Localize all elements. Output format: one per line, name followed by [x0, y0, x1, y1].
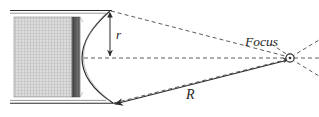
focus-label: Focus [244, 34, 278, 49]
focus-center-dot [289, 57, 292, 60]
radius-label: r [116, 27, 122, 42]
reflector-diagram-svg: r R Focus [0, 0, 319, 117]
arc-cap-top [80, 17, 83, 22]
arc-cap-bottom [80, 92, 83, 97]
radius-arrow [107, 12, 113, 56]
ray-diverge-upper [291, 40, 319, 57]
figure-container: r R Focus [0, 0, 319, 117]
hatched-block [14, 17, 80, 97]
distance-arrow [115, 60, 288, 104]
arc-inner [84, 14, 111, 101]
distance-label: R [185, 87, 195, 102]
distance-arrow-line [115, 60, 288, 104]
ray-bottom-to-focus [114, 59, 289, 103]
hatched-block-body [14, 17, 72, 97]
converging-rays [111, 11, 289, 103]
ray-diverge-lower [291, 59, 319, 76]
focus-point-marker [286, 54, 294, 62]
curved-face-arc [80, 11, 113, 103]
